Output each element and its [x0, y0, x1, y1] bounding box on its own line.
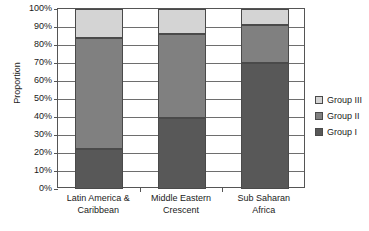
bars-layer — [58, 9, 304, 187]
bar-segment[interactable] — [241, 63, 289, 189]
x-axis-category-label-line: Latin America & — [57, 192, 140, 204]
legend-item[interactable]: Group III — [315, 92, 369, 108]
legend-swatch-icon — [315, 112, 323, 120]
x-axis-tick-mark — [222, 188, 223, 192]
legend-item[interactable]: Group I — [315, 124, 369, 140]
legend-swatch-icon — [315, 128, 323, 136]
chart-legend: Group IIIGroup IIGroup I — [315, 92, 369, 140]
bar-stack[interactable] — [75, 9, 123, 187]
x-axis-category-label: Middle EasternCrescent — [140, 192, 223, 216]
y-axis-tick-label: 80% — [16, 40, 52, 49]
legend-label: Group II — [327, 112, 360, 121]
y-axis-tick-label: 10% — [16, 166, 52, 175]
x-axis-category-label-line: Sub Saharan — [222, 192, 305, 204]
legend-label: Group I — [327, 128, 357, 137]
stacked-bar-chart: Proportion 100%90%80%70%60%50%40%30%20%1… — [0, 0, 369, 231]
legend-swatch-icon — [315, 96, 323, 104]
legend-item[interactable]: Group II — [315, 108, 369, 124]
bar-segment[interactable] — [158, 9, 206, 34]
y-axis-tick-label: 60% — [16, 76, 52, 85]
y-axis-tick-labels: 100%90%80%70%60%50%40%30%20%10%0% — [16, 8, 52, 188]
y-axis-tick-label: 0% — [16, 184, 52, 193]
legend-label: Group III — [327, 96, 362, 105]
x-axis-category-label: Sub SaharanAfrica — [222, 192, 305, 216]
x-axis-category-label-line: Africa — [222, 204, 305, 216]
x-axis-category-labels: Latin America &CaribbeanMiddle EasternCr… — [57, 192, 305, 226]
bar-stack[interactable] — [158, 9, 206, 187]
y-axis-tick-label: 90% — [16, 22, 52, 31]
y-axis-tick-label: 50% — [16, 94, 52, 103]
bar-segment[interactable] — [75, 38, 123, 150]
y-axis-tick-label: 30% — [16, 130, 52, 139]
x-axis-category-label-line: Caribbean — [57, 204, 140, 216]
y-axis-tick-label: 20% — [16, 148, 52, 157]
y-axis-tick-label: 70% — [16, 58, 52, 67]
x-axis-category-label-line: Middle Eastern — [140, 192, 223, 204]
x-axis-category-label-line: Crescent — [140, 204, 223, 216]
y-axis-tick-label: 40% — [16, 112, 52, 121]
x-axis-tick-mark — [140, 188, 141, 192]
bar-segment[interactable] — [75, 149, 123, 189]
bar-segment[interactable] — [241, 25, 289, 63]
x-axis-category-label: Latin America &Caribbean — [57, 192, 140, 216]
y-axis-tick-label: 100% — [16, 4, 52, 13]
y-axis-tick-mark — [54, 189, 58, 190]
bar-stack[interactable] — [241, 9, 289, 187]
plot-area — [57, 8, 305, 188]
bar-segment[interactable] — [158, 34, 206, 118]
bar-segment[interactable] — [158, 118, 206, 189]
bar-segment[interactable] — [241, 9, 289, 25]
bar-segment[interactable] — [75, 9, 123, 38]
